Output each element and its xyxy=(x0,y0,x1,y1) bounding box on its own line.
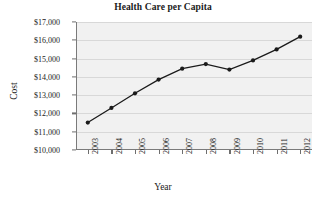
y-axis-title: Cost xyxy=(9,61,19,121)
data-point-marker xyxy=(298,35,302,39)
data-point-marker xyxy=(204,62,208,66)
data-point-marker xyxy=(109,106,113,110)
data-point-marker xyxy=(86,120,90,124)
data-point-marker xyxy=(180,67,184,71)
chart-container: Health Care per Capita $10,000$11,000$12… xyxy=(0,0,326,204)
series-polyline xyxy=(88,37,300,123)
data-point-marker xyxy=(157,78,161,82)
data-point-marker xyxy=(251,58,255,62)
data-point-marker xyxy=(227,67,231,71)
data-series-line xyxy=(0,0,326,204)
data-point-marker xyxy=(275,47,279,51)
x-axis-title: Year xyxy=(0,182,326,192)
data-point-marker xyxy=(133,91,137,95)
